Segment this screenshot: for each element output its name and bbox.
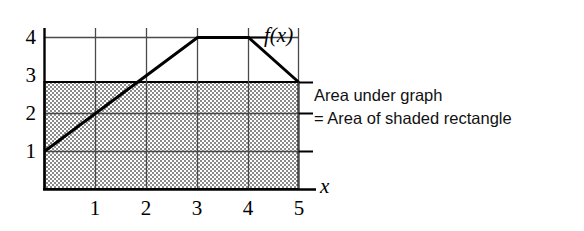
y-tick-label-1: 1: [14, 141, 36, 162]
x-axis-label: x: [320, 176, 329, 197]
y-tick-label-3: 3: [14, 65, 36, 86]
y-tick-label-2: 2: [14, 103, 36, 124]
function-label: f(x): [264, 25, 293, 46]
x-tick-label-4: 4: [237, 198, 259, 219]
annotation-text: Area under graph = Area of shaded rectan…: [314, 84, 580, 130]
annotation-line-1: Area under graph: [314, 84, 580, 107]
x-tick-label-2: 2: [135, 198, 157, 219]
y-tick-label-4: 4: [14, 27, 36, 48]
x-tick-label-5: 5: [288, 198, 310, 219]
x-tick-label-3: 3: [186, 198, 208, 219]
annotation-line-2: = Area of shaded rectangle: [314, 107, 580, 130]
mean-value-figure: 4 3 2 1 1 2 3 4 5 f(x) x Area under grap…: [0, 0, 584, 231]
shaded-rectangle: [45, 82, 299, 189]
x-tick-label-1: 1: [84, 198, 106, 219]
